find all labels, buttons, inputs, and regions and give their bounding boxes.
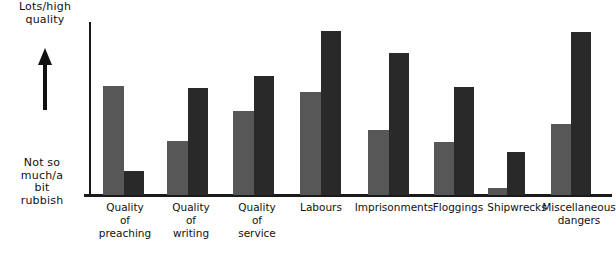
bar <box>167 141 188 195</box>
x-axis-category-label: Quality of preaching <box>93 201 157 240</box>
x-axis-category-label: Quality of service <box>225 201 289 240</box>
plot-area <box>0 0 616 195</box>
x-axis-category-label: Miscellaneous dangers <box>542 201 616 227</box>
x-axis-category-label: Shipwrecks <box>484 201 550 214</box>
bar <box>488 188 507 195</box>
bar <box>571 32 591 195</box>
bar <box>233 111 254 195</box>
bar <box>254 76 274 195</box>
bar <box>321 31 341 195</box>
bar-chart: Lots/high quality Not so much/a bit rubb… <box>0 0 616 268</box>
bar <box>434 142 454 195</box>
bar <box>103 86 124 195</box>
x-axis-category-label: Imprisonments <box>351 201 437 214</box>
bar <box>124 171 144 195</box>
bar <box>368 130 389 195</box>
bar <box>507 152 525 195</box>
bar <box>389 53 409 195</box>
x-axis-category-label: Quality of writing <box>159 201 223 240</box>
x-axis-category-label: Labours <box>290 201 352 214</box>
bar <box>551 124 571 195</box>
bar <box>300 92 321 195</box>
x-axis-category-label: Floggings <box>427 201 489 214</box>
bar <box>454 87 474 195</box>
bar <box>188 88 208 195</box>
